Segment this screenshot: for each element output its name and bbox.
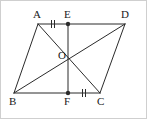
geometry-diagram: ABCDEFO (0, 0, 147, 119)
vertex-label-F: F (64, 95, 70, 107)
vertex-label-E: E (64, 8, 71, 20)
geometry-figure: ABCDEFO (0, 0, 147, 119)
vertex-label-C: C (97, 95, 104, 107)
vertex-label-A: A (33, 8, 41, 20)
vertex-label-D: D (121, 8, 129, 20)
vertex-label-O: O (58, 49, 66, 61)
vertex-label-B: B (9, 95, 16, 107)
point-dot-E (66, 22, 70, 26)
